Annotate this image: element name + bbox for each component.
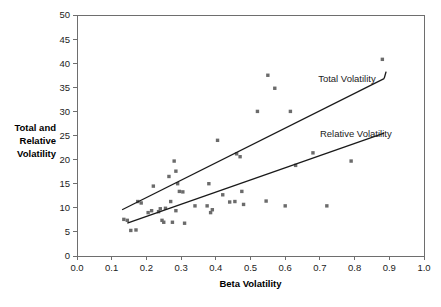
scatter-point — [211, 208, 214, 211]
y-tick-label: 10 — [59, 202, 70, 213]
scatter-point — [216, 139, 219, 142]
y-tick-label: 30 — [59, 106, 70, 117]
scatter-point — [240, 190, 243, 193]
scatter-point — [174, 169, 177, 172]
scatter-point — [289, 110, 292, 113]
scatter-point — [169, 200, 172, 203]
scatter-plot-svg: 05101520253035404550 0.00.10.20.30.40.50… — [0, 0, 441, 307]
scatter-point — [150, 209, 153, 212]
x-tick-label: 0.4 — [209, 262, 222, 273]
scatter-point — [233, 200, 236, 203]
scatter-point — [228, 200, 231, 203]
x-tick-label: 1.0 — [417, 262, 430, 273]
y-tick-label: 45 — [59, 34, 70, 45]
x-tick-label: 0.8 — [348, 262, 361, 273]
y-tick-label: 15 — [59, 178, 70, 189]
scatter-point — [284, 204, 287, 207]
x-tick-label: 0.9 — [383, 262, 396, 273]
x-axis-title: Beta Volatility — [219, 278, 282, 289]
scatter-point — [183, 222, 186, 225]
scatter-point — [221, 193, 224, 196]
scatter-point — [381, 58, 384, 61]
scatter-point — [207, 182, 210, 185]
y-tick-label: 0 — [65, 250, 70, 261]
scatter-point — [311, 151, 314, 154]
scatter-point — [174, 209, 177, 212]
scatter-point — [122, 218, 125, 221]
scatter-point — [146, 211, 149, 214]
x-tick-label: 0.0 — [70, 262, 83, 273]
y-tick-label: 20 — [59, 154, 70, 165]
scatter-point — [159, 207, 162, 210]
scatter-point — [349, 159, 352, 162]
scatter-point — [172, 159, 175, 162]
scatter-point — [264, 199, 267, 202]
x-tick-label: 0.3 — [174, 262, 187, 273]
series-label-relative-volatility: Relative Volatility — [320, 128, 392, 139]
scatter-point — [126, 219, 129, 222]
scatter-point — [167, 175, 170, 178]
scatter-point — [181, 190, 184, 193]
scatter-point — [171, 221, 174, 224]
scatter-point — [193, 204, 196, 207]
scatter-point — [273, 87, 276, 90]
chart-figure: 05101520253035404550 0.00.10.20.30.40.50… — [0, 0, 441, 307]
scatter-point — [256, 110, 259, 113]
x-tick-label: 0.7 — [313, 262, 326, 273]
scatter-point — [129, 229, 132, 232]
series-label-total-volatility: Total Volatility — [318, 73, 376, 84]
x-tick-label: 0.1 — [105, 262, 118, 273]
scatter-point — [140, 201, 143, 204]
y-axis-title-line: Total and — [14, 122, 56, 133]
scatter-point — [162, 221, 165, 224]
x-tick-label: 0.6 — [279, 262, 292, 273]
y-tick-label: 25 — [59, 130, 70, 141]
scatter-point — [205, 204, 208, 207]
scatter-point — [152, 184, 155, 187]
y-axis-title-line: Volatility — [17, 148, 57, 159]
scatter-point — [266, 74, 269, 77]
y-tick-label: 35 — [59, 82, 70, 93]
scatter-point — [238, 155, 241, 158]
y-axis-title-line: Relative — [20, 135, 56, 146]
scatter-point — [178, 190, 181, 193]
y-tick-label: 50 — [59, 9, 70, 20]
x-tick-label: 0.2 — [140, 262, 153, 273]
scatter-point — [242, 203, 245, 206]
y-tick-label: 40 — [59, 58, 70, 69]
scatter-point — [325, 204, 328, 207]
scatter-point — [134, 228, 137, 231]
x-tick-label: 0.5 — [244, 262, 257, 273]
y-tick-label: 5 — [65, 226, 70, 237]
